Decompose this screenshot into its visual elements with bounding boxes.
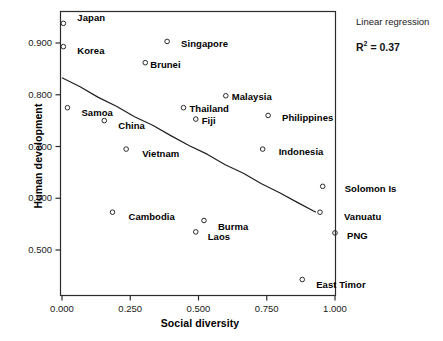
data-point-marker[interactable] [102,118,107,123]
data-point-marker[interactable] [260,147,265,152]
data-point-label: Vietnam [142,148,179,159]
data-point-label: Singapore [181,38,228,49]
data-point-label: Burma [218,221,248,232]
x-axis-ticks [62,296,335,301]
r-squared-value: = 0.37 [370,41,400,53]
data-point-marker[interactable] [193,117,198,122]
y-tick-label: 0.600 [10,192,52,203]
data-point-marker[interactable] [300,277,305,282]
regression-line [62,78,316,213]
data-point-label: Laos [208,231,230,242]
data-point-label: Vanuatu [344,211,381,222]
data-point-marker[interactable] [320,184,325,189]
data-point-marker[interactable] [165,39,170,44]
data-point-label: Samoa [81,107,112,118]
data-point-label: China [118,120,145,131]
data-point-marker[interactable] [202,218,207,223]
data-point-marker[interactable] [61,21,66,26]
data-point-label: Brunei [150,59,180,70]
scatter-plot-figure: Human development Social diversity Linea… [0,0,443,341]
data-point-marker[interactable] [181,105,186,110]
x-axis-title: Social diversity [60,317,340,329]
x-tick-label: 0.250 [105,303,155,314]
y-tick-label: 0.500 [10,244,52,255]
data-point-label: Malaysia [232,91,272,102]
x-tick-label: 1.000 [310,303,360,314]
data-point-label: Thailand [189,103,228,114]
y-tick-label: 0.700 [10,141,52,152]
regression-annotation-label: Linear regression [356,16,429,27]
data-point-label: East Timor [316,279,365,290]
data-point-label: Cambodia [129,211,175,222]
x-tick-label: 0.500 [174,303,224,314]
y-tick-label: 0.800 [10,89,52,100]
data-point-label: Korea [77,45,104,56]
data-point-marker[interactable] [61,44,66,49]
r-squared-annotation: R2 = 0.37 [356,40,400,53]
x-tick-label: 0.750 [242,303,292,314]
y-tick-label: 0.900 [10,37,52,48]
x-tick-label: 0.000 [37,303,87,314]
data-point-marker[interactable] [143,60,148,65]
data-point-marker[interactable] [65,105,70,110]
r-squared-symbol: R [356,41,364,53]
data-point-marker[interactable] [318,210,323,215]
data-point-label: Solomon Is [345,183,397,194]
data-point-label: Philippines [282,112,333,123]
y-axis-ticks [56,43,61,250]
data-point-label: Indonesia [279,146,324,157]
data-point-label: Japan [77,12,105,23]
data-point-label: Fiji [202,115,216,126]
data-point-label: PNG [347,230,368,241]
data-point-marker[interactable] [193,230,198,235]
data-point-marker[interactable] [110,210,115,215]
data-point-marker[interactable] [224,93,229,98]
regression-line-group [62,78,316,213]
data-point-marker[interactable] [124,147,129,152]
r-squared-exponent: 2 [364,40,368,47]
data-point-marker[interactable] [266,113,271,118]
